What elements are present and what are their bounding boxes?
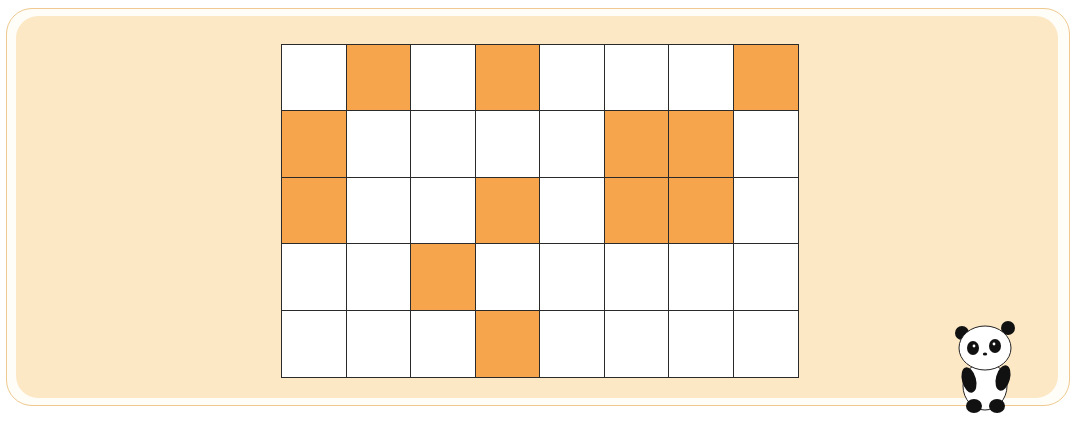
grid-cell-empty	[411, 178, 476, 244]
grid-cell-empty	[347, 178, 412, 244]
grid-cell-empty	[411, 111, 476, 177]
grid-cell-empty	[347, 311, 412, 377]
grid-cell-empty	[347, 244, 412, 310]
grid-cell-empty	[282, 244, 347, 310]
grid-cell-empty	[734, 311, 799, 377]
grid-cell-shaded	[476, 45, 541, 111]
shaded-grid	[281, 44, 799, 378]
grid-cell-empty	[540, 111, 605, 177]
grid-cell-empty	[282, 311, 347, 377]
grid-cell-shaded	[669, 111, 734, 177]
grid-cell-empty	[734, 244, 799, 310]
grid-cell-shaded	[282, 178, 347, 244]
grid-cell-empty	[734, 111, 799, 177]
grid-cell-shaded	[605, 178, 670, 244]
grid-cell-empty	[411, 311, 476, 377]
grid-cell-shaded	[347, 45, 412, 111]
grid-cell-shaded	[669, 178, 734, 244]
grid-cell-shaded	[476, 311, 541, 377]
grid-cell-shaded	[476, 178, 541, 244]
grid-cell-empty	[347, 111, 412, 177]
grid-cell-shaded	[411, 244, 476, 310]
grid-cell-empty	[540, 178, 605, 244]
grid-cell-shaded	[605, 111, 670, 177]
grid-cell-empty	[669, 244, 734, 310]
grid-cell-empty	[282, 45, 347, 111]
grid-cell-empty	[540, 244, 605, 310]
grid-cell-empty	[605, 311, 670, 377]
grid-cell-empty	[411, 45, 476, 111]
grid-cell-empty	[540, 45, 605, 111]
grid-cell-empty	[605, 45, 670, 111]
grid-cell-empty	[669, 45, 734, 111]
grid-cell-shaded	[282, 111, 347, 177]
grid-cell-empty	[605, 244, 670, 310]
grid-cell-empty	[734, 178, 799, 244]
grid-cell-empty	[476, 111, 541, 177]
grid-cell-empty	[540, 311, 605, 377]
panda-icon	[950, 318, 1022, 414]
grid-cell-shaded	[734, 45, 799, 111]
grid-cell-empty	[476, 244, 541, 310]
grid-cell-empty	[669, 311, 734, 377]
